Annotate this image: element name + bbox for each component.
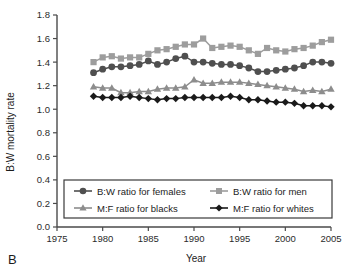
y-tick-label: 1.6 xyxy=(37,33,50,44)
x-tick-label: 2000 xyxy=(275,233,296,244)
y-tick-label: 1.0 xyxy=(37,104,50,115)
y-tick-label: 1.8 xyxy=(37,9,50,20)
x-tick-label: 2005 xyxy=(320,233,341,244)
y-tick-label: 0.2 xyxy=(37,198,50,209)
series-1 xyxy=(90,53,334,76)
x-axis-title: Year xyxy=(186,253,207,264)
x-tick-label: 1975 xyxy=(46,233,67,244)
line-chart: 0.00.20.40.60.81.01.21.41.61.81975198019… xyxy=(0,0,343,272)
legend-label: B:W ratio for females xyxy=(97,186,186,197)
y-tick-label: 0.8 xyxy=(37,127,50,138)
legend-label: B:W ratio for men xyxy=(233,186,307,197)
y-axis-title: B:W mortality rate xyxy=(5,92,16,172)
y-tick-label: 0.0 xyxy=(37,221,50,232)
y-tick-label: 1.4 xyxy=(37,57,50,68)
y-tick-label: 0.4 xyxy=(37,174,50,185)
series-2 xyxy=(90,76,335,95)
chart-legend: B:W ratio for femalesB:W ratio for menM:… xyxy=(64,180,332,218)
y-tick-label: 1.2 xyxy=(37,80,50,91)
panel-label: B xyxy=(8,252,17,267)
y-tick-label: 0.6 xyxy=(37,151,50,162)
series-group xyxy=(90,35,335,110)
x-tick-label: 1985 xyxy=(138,233,159,244)
x-tick-label: 1980 xyxy=(92,233,113,244)
x-tick-label: 1990 xyxy=(183,233,204,244)
legend-label: M:F ratio for whites xyxy=(233,203,314,214)
legend-label: M:F ratio for blacks xyxy=(97,203,178,214)
x-tick-label: 1995 xyxy=(229,233,250,244)
chart-panel: 0.00.20.40.60.81.01.21.41.61.81975198019… xyxy=(0,0,343,272)
